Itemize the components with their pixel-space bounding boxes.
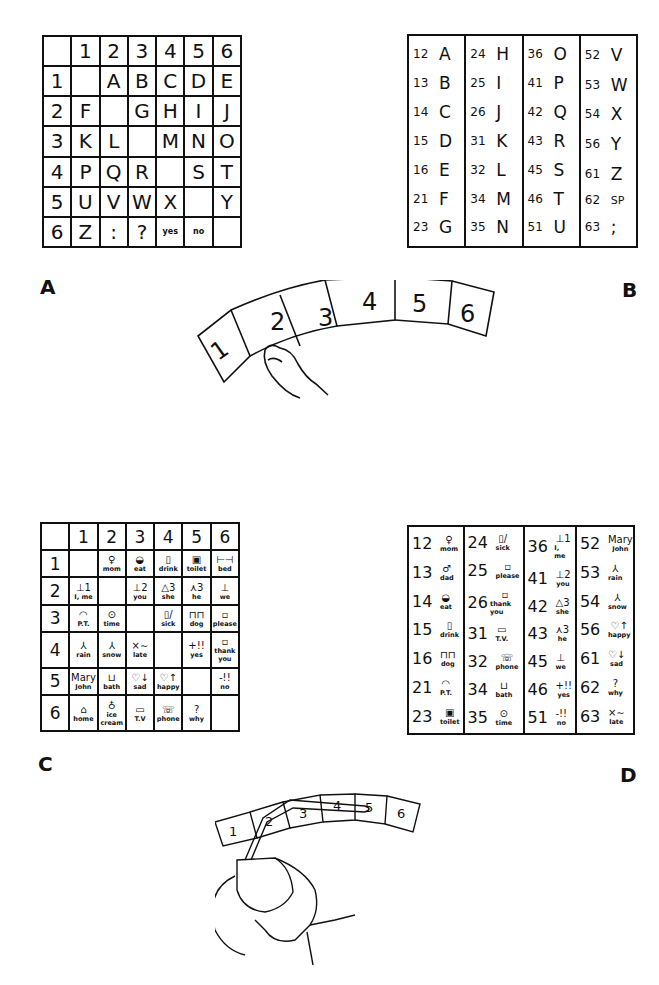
- grid-cell: V: [100, 187, 128, 217]
- entry-code: 45: [528, 163, 554, 177]
- hand-pointing-arc-illustration: 1 2 3 4 5 6: [190, 280, 500, 400]
- entry-letter: D: [439, 131, 452, 151]
- entry-letter: N: [496, 217, 509, 237]
- bliss-symbol-icon: ▭: [127, 704, 153, 715]
- symbol-cell: [182, 668, 210, 695]
- symbol-cell: ☏phone: [154, 695, 182, 731]
- symbol-cell: ◒eat: [126, 550, 154, 577]
- list-item: 31▭T.V.: [468, 624, 520, 643]
- symbol-pictograph: ⊥2you: [556, 569, 571, 588]
- symbol-grid-table: 1234561♀mom◒eat▯drink▣toilet⊢⊣bed2⊥1I, m…: [40, 522, 240, 732]
- grid-cell: G: [128, 96, 156, 126]
- symbol-word: time: [496, 719, 513, 727]
- grid-cell: [128, 126, 156, 156]
- bliss-symbol-icon: ⊓⊓: [183, 609, 209, 620]
- code-column: 24▯/sick25▫please26▫thank you31▭T.V.32☏p…: [465, 527, 525, 733]
- entry-code: 16: [413, 163, 439, 177]
- symbol-cell: ♁ice cream: [98, 695, 126, 731]
- entry-code: 31: [470, 134, 496, 148]
- symbol-word: no: [212, 683, 238, 691]
- entry-code: 45: [528, 652, 556, 671]
- symbol-word: please: [496, 572, 520, 580]
- bliss-symbol-icon: ?: [183, 704, 209, 715]
- grid-cell: F: [71, 96, 99, 126]
- list-item: 32☏phone: [468, 652, 520, 671]
- row-header: 1: [41, 550, 69, 577]
- entry-letter: K: [496, 131, 507, 151]
- entry-letter: O: [554, 44, 567, 64]
- list-item: 14C: [413, 102, 460, 122]
- symbol-word: yes: [557, 691, 570, 699]
- code-column: 24H25I26J31K32L34M35N: [466, 36, 523, 246]
- entry-letter: V: [611, 45, 623, 65]
- symbol-word: toilet: [440, 718, 460, 726]
- grid-cell: W: [128, 187, 156, 217]
- code-column: 36⊥1I, me41⊥2you42△3she43⋏3he45⊥we46+!!y…: [525, 527, 577, 733]
- symbol-pictograph: ◠P.T.: [440, 678, 452, 697]
- entry-code: 31: [468, 624, 496, 643]
- symbol-word: toilet: [183, 565, 209, 573]
- list-item: 42Q: [528, 102, 575, 122]
- list-item: 52MaryJohn: [580, 534, 633, 553]
- symbol-word: dog: [183, 620, 209, 628]
- bliss-symbol-icon: ⅄: [99, 640, 125, 651]
- bliss-symbol-icon: ⊔: [500, 680, 508, 691]
- grid-cell: S: [184, 157, 212, 187]
- symbol-word: she: [556, 608, 569, 616]
- list-item: 12A: [413, 44, 460, 64]
- symbol-word: mom: [440, 545, 458, 553]
- symbol-word: she: [155, 593, 181, 601]
- label-c: C: [38, 752, 53, 776]
- bliss-symbol-icon: ⊙: [99, 609, 125, 620]
- bliss-symbol-icon: ⊥1: [70, 582, 96, 593]
- list-item: 41P: [528, 73, 575, 93]
- entry-letter: SP: [611, 194, 625, 207]
- entry-letter: W: [611, 75, 628, 95]
- code-column: 52V53W54X56Y61Z62SP63;: [581, 36, 636, 246]
- list-item: 45⊥we: [528, 652, 572, 671]
- col-header: 3: [128, 36, 156, 66]
- bliss-symbol-icon: ◒: [127, 554, 153, 565]
- entry-code: 52: [585, 48, 611, 62]
- bliss-symbol-icon: ♡↑: [611, 620, 628, 631]
- row-header: 5: [41, 668, 69, 695]
- entry-code: 14: [412, 592, 440, 611]
- bliss-symbol-icon: ♀: [445, 534, 452, 545]
- symbol-word: time: [99, 620, 125, 628]
- row-header: 2: [43, 96, 71, 126]
- bliss-symbol-icon: ▯/: [155, 609, 181, 620]
- col-header: 2: [98, 523, 126, 550]
- symbol-cell: [69, 550, 97, 577]
- grid-cell: B: [128, 66, 156, 96]
- bliss-symbol-icon: ⊓⊓: [440, 649, 456, 660]
- grid-cell: J: [213, 96, 241, 126]
- col-header: 4: [154, 523, 182, 550]
- grid-cell: [184, 187, 212, 217]
- symbol-word: happy: [155, 683, 181, 691]
- entry-code: 21: [413, 192, 439, 206]
- grid-cell: U: [71, 187, 99, 217]
- bliss-symbol-icon: ☏: [501, 652, 514, 663]
- grid-cell: L: [100, 126, 128, 156]
- symbol-word: sad: [610, 660, 623, 668]
- label-b: B: [622, 278, 637, 302]
- symbol-pictograph: ⊙time: [496, 708, 513, 727]
- entry-code: 12: [412, 534, 440, 553]
- grid-cell: T: [213, 157, 241, 187]
- entry-letter: U: [554, 217, 566, 237]
- arc-top-num-2: 2: [270, 308, 285, 336]
- entry-code: 42: [528, 597, 556, 616]
- list-item: 45S: [528, 160, 575, 180]
- symbol-word: T.V: [127, 715, 153, 723]
- bliss-symbol-icon: -!!: [556, 708, 568, 719]
- entry-code: 53: [580, 563, 608, 582]
- symbol-cell: ▣toilet: [182, 550, 210, 577]
- entry-code: 13: [412, 563, 440, 582]
- bliss-symbol-icon: ▯/: [498, 533, 507, 544]
- entry-code: 35: [470, 220, 496, 234]
- symbol-word: eat: [127, 565, 153, 573]
- symbol-pictograph: △3she: [556, 597, 570, 616]
- symbol-pictograph: MaryJohn: [608, 534, 633, 553]
- list-item: 46+!!yes: [528, 680, 572, 699]
- symbol-word: P.T.: [440, 689, 452, 697]
